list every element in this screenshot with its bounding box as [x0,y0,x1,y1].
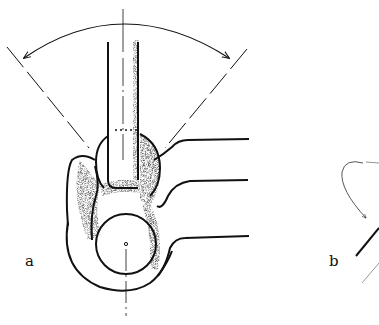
part-b-detail [342,162,379,283]
angle-limit-lines [7,47,247,148]
swing-range-arc [24,24,229,58]
figure-label-a: a [25,252,34,270]
shading-stipple [76,40,160,270]
figure-label-b: b [329,252,339,270]
ball [96,214,156,316]
technical-illustration [0,0,379,325]
